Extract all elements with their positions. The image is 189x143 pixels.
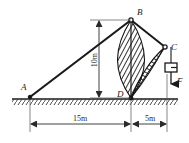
node-label-B: B: [137, 7, 143, 17]
dimension-label-span-left: 15m: [73, 114, 88, 123]
dimension-label-span-right: 5m: [145, 114, 156, 123]
diagram-canvas: 10m 15m 5m A B C D F: [0, 0, 189, 143]
force-label-F: F: [176, 76, 183, 86]
joint-A: [28, 95, 32, 99]
node-label-D: D: [116, 89, 124, 99]
dimension-label-height: 10m: [90, 52, 99, 67]
ground-support: [12, 99, 178, 105]
member-AB: [30, 20, 131, 97]
node-label-A: A: [20, 82, 27, 92]
structural-diagram-svg: 10m 15m 5m A B C D F: [0, 0, 189, 143]
ground-hatch: [12, 99, 178, 105]
joint-C: [163, 45, 167, 49]
node-label-C: C: [171, 42, 178, 52]
